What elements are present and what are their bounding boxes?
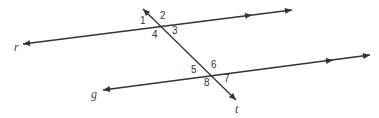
angle-label-3: 3 [172,25,178,36]
angle-label-2: 2 [160,10,166,21]
line-g [103,53,370,92]
arrowhead-icon [326,58,333,64]
arrowhead-icon [245,13,252,19]
parallel-lines-diagram: rgt12345678 [0,0,379,118]
arrowhead-icon [285,8,292,14]
line-label-t: t [235,102,239,116]
angle-label-4: 4 [152,29,158,40]
angle-label-5: 5 [191,64,197,75]
lines-layer [23,8,370,100]
line-label-g: g [91,87,97,101]
line-r [23,8,292,46]
arrowhead-icon [103,86,110,92]
line-label-r: r [14,40,19,54]
arrowhead-icon [23,40,30,46]
angle-label-1: 1 [140,15,146,26]
angle-label-7: 7 [224,73,230,84]
angle-label-6: 6 [211,59,217,70]
arrowhead-icon [363,53,370,59]
angle-label-8: 8 [204,77,210,88]
labels-layer: rgt12345678 [14,10,239,116]
